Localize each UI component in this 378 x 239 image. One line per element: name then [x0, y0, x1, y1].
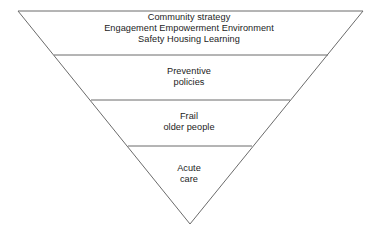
inverted-triangle-outline: [18, 11, 363, 224]
triangle-outline-svg: [0, 0, 378, 239]
inverted-triangle-diagram: Community strategy Engagement Empowermen…: [0, 0, 378, 239]
